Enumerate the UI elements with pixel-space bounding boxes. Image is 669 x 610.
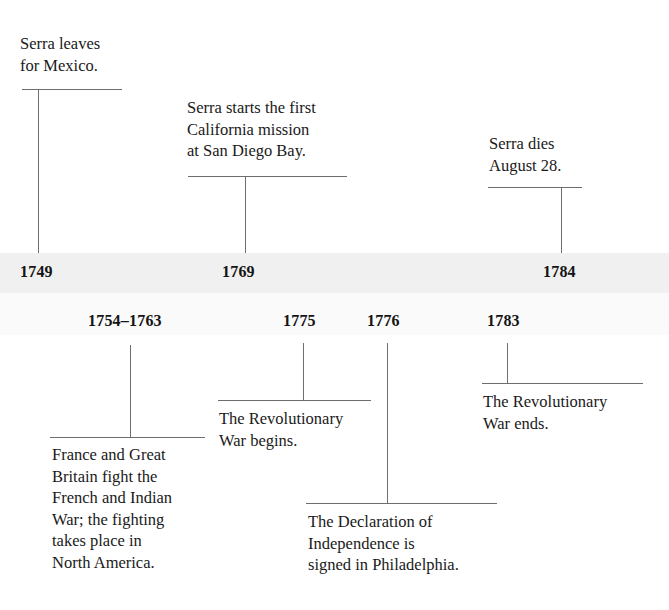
event-caption-1776: The Declaration of Independence is signe… <box>308 511 459 576</box>
connector-stem-1754-1763 <box>130 345 131 437</box>
event-caption-1769: Serra starts the first California missio… <box>187 97 316 162</box>
connector-stem-1775 <box>303 343 304 400</box>
connector-rule-1775 <box>218 400 371 401</box>
connector-stem-1783 <box>507 343 508 383</box>
connector-stem-1769 <box>245 176 246 253</box>
connector-stem-1776 <box>387 343 388 503</box>
connector-rule-1754-1763 <box>50 437 205 438</box>
connector-stem-1749 <box>38 89 39 253</box>
connector-rule-1784 <box>488 187 582 188</box>
year-label-1754-1763: 1754–1763 <box>88 313 162 329</box>
event-caption-1775: The Revolutionary War begins. <box>219 408 343 451</box>
connector-rule-1783 <box>482 383 643 384</box>
year-label-1769: 1769 <box>222 264 255 280</box>
event-caption-1749: Serra leaves for Mexico. <box>20 33 100 76</box>
timeline-diagram: Serra leaves for Mexico. Serra starts th… <box>0 0 669 610</box>
event-caption-1784: Serra dies August 28. <box>489 133 561 176</box>
connector-rule-1769 <box>188 176 347 177</box>
event-caption-1783: The Revolutionary War ends. <box>483 391 607 434</box>
year-label-1776: 1776 <box>367 313 400 329</box>
year-label-1775: 1775 <box>283 313 316 329</box>
year-label-1749: 1749 <box>20 264 53 280</box>
year-label-1783: 1783 <box>487 313 520 329</box>
connector-stem-1784 <box>561 187 562 253</box>
connector-rule-1749 <box>22 89 122 90</box>
event-caption-1754-1763: France and Great Britain fight the Frenc… <box>52 444 172 573</box>
year-label-1784: 1784 <box>543 264 576 280</box>
connector-rule-1776 <box>306 503 497 504</box>
